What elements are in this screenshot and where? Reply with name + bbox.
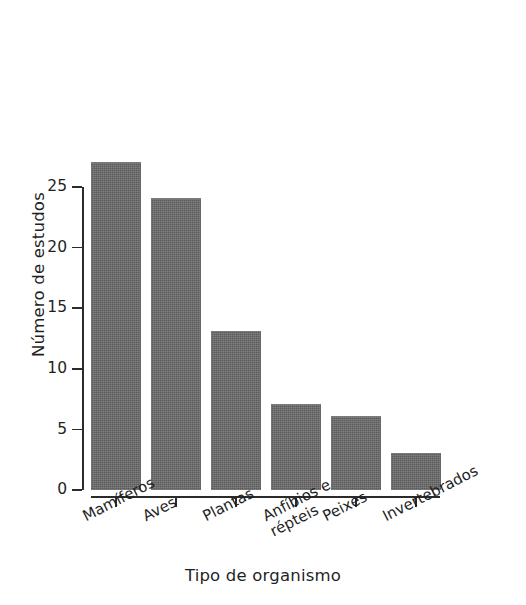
bar-2[interactable]: [151, 198, 201, 490]
y-axis-title: Número de estudos: [29, 175, 48, 375]
y-axis-tick-label: 5: [57, 419, 67, 439]
bar-4[interactable]: [271, 404, 321, 490]
bar-chart-figure: Número de estudos 0510152025 MamíferosAv…: [0, 0, 526, 605]
y-axis-tick-label: 0: [57, 479, 67, 499]
y-axis-tick: 25: [72, 186, 82, 188]
bars-layer: [91, 155, 447, 490]
bar-3[interactable]: [211, 331, 261, 490]
y-axis-tick: 5: [72, 429, 82, 431]
bar-slot[interactable]: [211, 155, 261, 490]
bar-1[interactable]: [91, 162, 141, 490]
bar-slot[interactable]: [151, 155, 201, 490]
y-axis-tick: 0: [72, 489, 82, 491]
x-axis-tick-label: Aves: [140, 494, 179, 525]
y-axis-tick-label: 15: [47, 297, 67, 317]
y-axis-tick: 15: [72, 307, 82, 309]
bar-slot[interactable]: [391, 155, 441, 490]
bar-slot[interactable]: [271, 155, 321, 490]
x-axis-title: Tipo de organismo: [0, 566, 526, 585]
y-axis-tick: 20: [72, 247, 82, 249]
plot-area: 0510152025: [82, 155, 447, 490]
y-axis-line: [82, 187, 84, 490]
y-axis-tick-label: 10: [47, 358, 67, 378]
y-axis-tick: 10: [72, 368, 82, 370]
bar-slot[interactable]: [91, 155, 141, 490]
bar-slot[interactable]: [331, 155, 381, 490]
x-axis-tick-label: Plantas: [200, 485, 257, 525]
y-axis-tick-label: 20: [47, 237, 67, 257]
y-axis-tick-label: 25: [47, 176, 67, 196]
